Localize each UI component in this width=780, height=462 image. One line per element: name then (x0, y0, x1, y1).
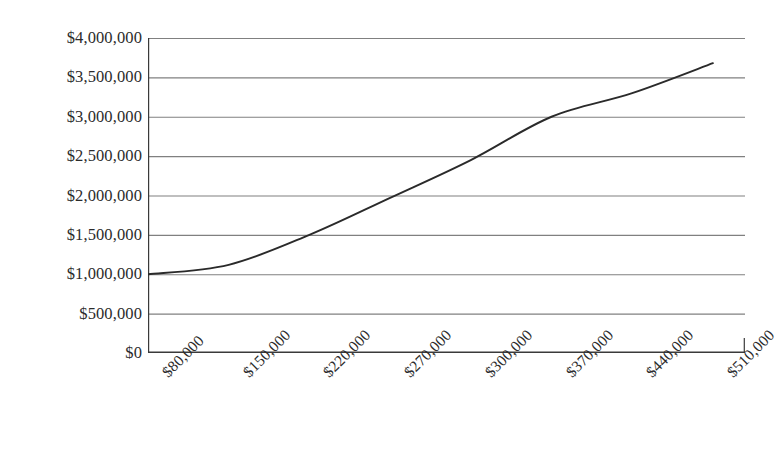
y-axis-tick-label: $2,000,000 (2, 187, 142, 204)
y-axis-tick-label: $3,500,000 (2, 69, 142, 86)
y-axis-tick-label: $1,000,000 (2, 266, 142, 283)
y-axis-tick-label: $2,500,000 (2, 148, 142, 165)
gridline-group (148, 39, 745, 315)
chart-container: $4,000,000$3,500,000$3,000,000$2,500,000… (0, 0, 780, 462)
y-axis-tick-label: $3,000,000 (2, 109, 142, 126)
y-axis-tick-label: $4,000,000 (2, 30, 142, 47)
data-series-line (148, 63, 713, 274)
y-axis-tick-label: $1,500,000 (2, 227, 142, 244)
y-axis-tick-label: $500,000 (2, 305, 142, 322)
chart-plot-svg (148, 38, 745, 353)
x-axis-tick-label-group: $80,000$150,000$220,000$270,000$300,000$… (0, 353, 780, 462)
plot-area (148, 38, 745, 353)
